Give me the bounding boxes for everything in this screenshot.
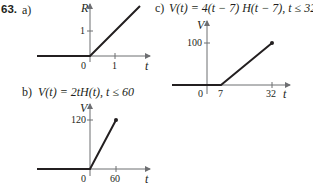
graph-c-endpoint xyxy=(270,41,274,45)
graph-c-origin-label: 0 xyxy=(198,89,203,99)
graph-c-x-tick-label-7: 7 xyxy=(218,89,223,99)
graph-a-x-label: t xyxy=(145,60,148,72)
graph-b-x-label: t xyxy=(145,173,148,185)
graph-a-x-tick-label: 1 xyxy=(112,61,117,71)
graph-a xyxy=(37,4,150,62)
graph-b-endpoint xyxy=(114,118,118,122)
graph-b-ramp-line xyxy=(37,120,116,169)
graph-c-y-tick-label: 100 xyxy=(187,38,202,48)
graph-c-ramp-line xyxy=(172,43,272,85)
graph-a-y-tick-label: 1 xyxy=(80,26,85,36)
graph-b-y-label: V xyxy=(80,102,87,114)
graph-c-x-label: t xyxy=(283,88,286,100)
graph-b-y-tick-label: 120 xyxy=(71,115,86,125)
graph-b xyxy=(37,104,150,176)
graph-c-y-label: V xyxy=(197,19,204,31)
graph-a-y-label: R xyxy=(81,2,88,14)
graph-c xyxy=(172,21,290,94)
graph-a-origin-label: 0 xyxy=(81,61,86,71)
graph-b-x-tick-label: 60 xyxy=(110,174,120,184)
graph-c-x-tick-label-32: 32 xyxy=(266,89,276,99)
graph-b-origin-label: 0 xyxy=(81,174,86,184)
